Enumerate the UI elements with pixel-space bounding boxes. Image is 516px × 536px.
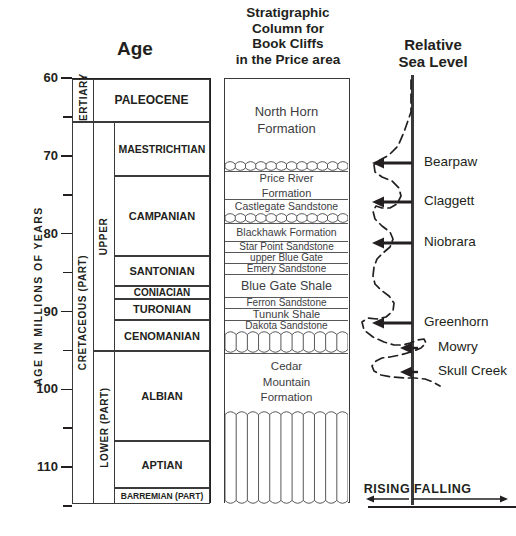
sea-level-event-label: Claggett <box>424 193 474 208</box>
sea-level-event-label: Mowry <box>438 339 478 354</box>
sea-level-event-label: Greenhorn <box>424 314 489 329</box>
sea-level-event-label: Skull Creek <box>438 363 507 378</box>
rising-label: RISING <box>363 482 411 496</box>
sea-level-event-label: Bearpaw <box>424 154 477 169</box>
sea-level-baseline <box>368 506 516 508</box>
sea-level-event-label: Niobrara <box>424 234 476 249</box>
falling-label: FALLING <box>414 482 470 496</box>
